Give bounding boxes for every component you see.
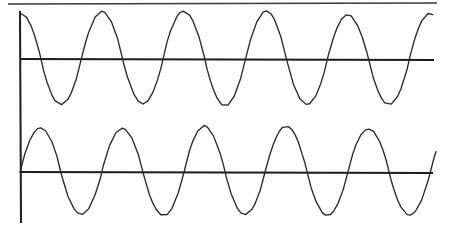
lower-waveform-trace xyxy=(20,125,436,215)
waveform-figure xyxy=(0,0,449,229)
lower-baseline-axis xyxy=(20,172,433,173)
upper-waveform-trace xyxy=(20,11,433,105)
waveform-canvas xyxy=(0,0,449,229)
vertical-axis xyxy=(20,11,21,223)
upper-baseline-axis xyxy=(20,59,434,60)
top-border-rule xyxy=(8,3,437,4)
